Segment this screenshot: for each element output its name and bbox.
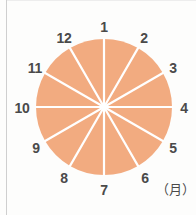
pie-label-1: 1 xyxy=(100,20,108,34)
pie-label-8: 8 xyxy=(60,171,68,185)
pie-label-3: 3 xyxy=(169,61,177,75)
unit-label: （月） xyxy=(156,183,195,196)
pie-label-6: 6 xyxy=(141,171,149,185)
pie-label-7: 7 xyxy=(100,183,108,197)
pie-chart-figure: 123456789101112 （月） xyxy=(0,0,196,215)
pie-label-10: 10 xyxy=(14,101,29,115)
pie-label-4: 4 xyxy=(180,101,188,115)
pie-center-hub xyxy=(102,105,106,109)
pie-label-2: 2 xyxy=(140,31,148,45)
pie-label-5: 5 xyxy=(169,141,177,155)
pie-label-11: 11 xyxy=(28,61,42,75)
pie-label-9: 9 xyxy=(32,141,40,155)
pie-label-12: 12 xyxy=(56,31,71,45)
